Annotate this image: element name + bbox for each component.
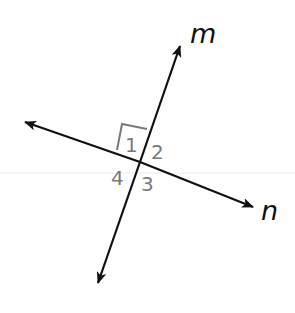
angle-label-2: 2 bbox=[151, 140, 164, 164]
angle-label-1: 1 bbox=[125, 133, 138, 157]
angle-label-4: 4 bbox=[111, 166, 124, 190]
line-label-n: n bbox=[261, 195, 278, 226]
line-n bbox=[140, 162, 253, 207]
angle-label-3: 3 bbox=[141, 172, 154, 196]
line-label-m: m bbox=[190, 18, 216, 49]
line-n-left bbox=[25, 122, 140, 162]
diagram-canvas: m n 1 2 3 4 bbox=[0, 0, 295, 313]
